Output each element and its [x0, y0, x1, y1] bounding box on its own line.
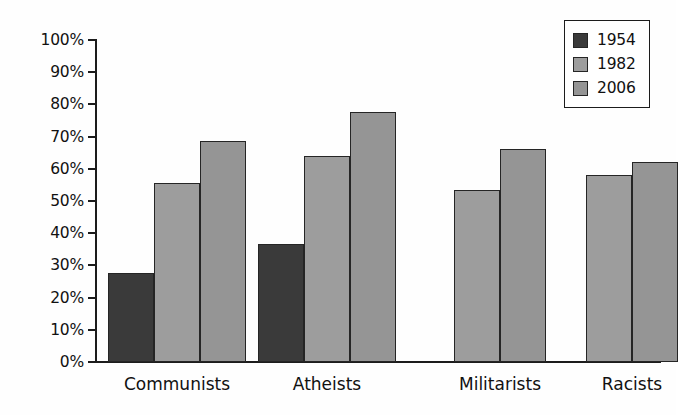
legend-label-1982: 1982	[597, 55, 636, 73]
y-axis-tick-label: 10%	[0, 321, 84, 339]
y-axis-tick-mark	[88, 361, 96, 363]
y-axis-tick-label: 80%	[0, 95, 84, 113]
bar-atheists-2006	[350, 112, 396, 362]
x-axis-label-racists: Racists	[602, 374, 662, 394]
x-axis-label-communists: Communists	[124, 374, 230, 394]
bar-militarists-1982	[454, 190, 500, 362]
bar-atheists-1982	[304, 156, 350, 362]
y-axis-tick-label: 90%	[0, 63, 84, 81]
bar-communists-1954	[108, 273, 154, 362]
bar-militarists-2006	[500, 149, 546, 362]
legend-label-1954: 1954	[597, 31, 636, 49]
y-axis-tick-mark	[88, 232, 96, 234]
y-axis-tick-label: 40%	[0, 224, 84, 242]
legend: 195419822006	[564, 20, 650, 108]
legend-item-1982[interactable]: 1982	[573, 52, 643, 76]
legend-swatch-1982	[573, 57, 588, 72]
y-axis-tick-mark	[88, 71, 96, 73]
bar-racists-1982	[586, 175, 632, 362]
bar-racists-2006	[632, 162, 678, 362]
y-axis-tick-label: 50%	[0, 192, 84, 210]
y-axis-tick-label: 70%	[0, 128, 84, 146]
y-axis-tick-mark	[88, 39, 96, 41]
y-axis-tick-mark	[88, 168, 96, 170]
y-axis-tick-label: 30%	[0, 256, 84, 274]
legend-item-2006[interactable]: 2006	[573, 76, 643, 100]
x-axis-label-militarists: Militarists	[459, 374, 541, 394]
y-axis-tick-label: 100%	[0, 31, 84, 49]
bar-communists-2006	[200, 141, 246, 362]
y-axis-tick-mark	[88, 297, 96, 299]
legend-swatch-2006	[573, 81, 588, 96]
x-axis-label-atheists: Atheists	[293, 374, 361, 394]
legend-swatch-1954	[573, 33, 588, 48]
y-axis-tick-label: 60%	[0, 160, 84, 178]
y-axis-tick-label: 0%	[0, 353, 84, 371]
legend-label-2006: 2006	[597, 79, 636, 97]
y-axis-tick-mark	[88, 200, 96, 202]
y-axis-tick-mark	[88, 329, 96, 331]
bar-communists-1982	[154, 183, 200, 362]
y-axis-tick-mark	[88, 103, 96, 105]
bar-atheists-1954	[258, 244, 304, 362]
y-axis-tick-mark	[88, 136, 96, 138]
y-axis-tick-mark	[88, 264, 96, 266]
y-axis-tick-label: 20%	[0, 289, 84, 307]
legend-item-1954[interactable]: 1954	[573, 28, 643, 52]
